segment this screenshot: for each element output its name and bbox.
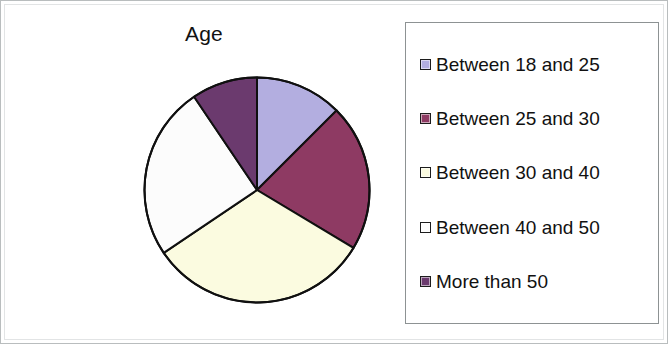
chart-legend: Between 18 and 25Between 25 and 30Betwee… <box>405 22 659 324</box>
legend-color-swatch <box>420 59 431 70</box>
pie-slice-group <box>144 78 369 303</box>
pie-svg <box>143 76 371 304</box>
legend-item[interactable]: More than 50 <box>420 269 652 295</box>
legend-item-label: More than 50 <box>436 272 548 291</box>
legend-item[interactable]: Between 25 and 30 <box>420 106 652 132</box>
chart-frame: Age Between 18 and 25Between 25 and 30Be… <box>0 0 668 344</box>
legend-item[interactable]: Between 30 and 40 <box>420 160 652 186</box>
chart-title: Age <box>9 23 399 44</box>
legend-color-swatch <box>420 222 431 233</box>
legend-item-label: Between 30 and 40 <box>436 163 600 182</box>
legend-item-label: Between 40 and 50 <box>436 218 600 237</box>
legend-color-swatch <box>420 167 431 178</box>
legend-color-swatch <box>420 276 431 287</box>
pie-chart-plot-area: Age <box>9 9 399 337</box>
legend-color-swatch <box>420 113 431 124</box>
pie-graphic <box>143 76 371 304</box>
legend-item-label: Between 25 and 30 <box>436 109 600 128</box>
legend-item[interactable]: Between 40 and 50 <box>420 214 652 240</box>
legend-item-label: Between 18 and 25 <box>436 55 600 74</box>
legend-item[interactable]: Between 18 and 25 <box>420 51 652 77</box>
legend-item-list: Between 18 and 25Between 25 and 30Betwee… <box>406 23 658 323</box>
